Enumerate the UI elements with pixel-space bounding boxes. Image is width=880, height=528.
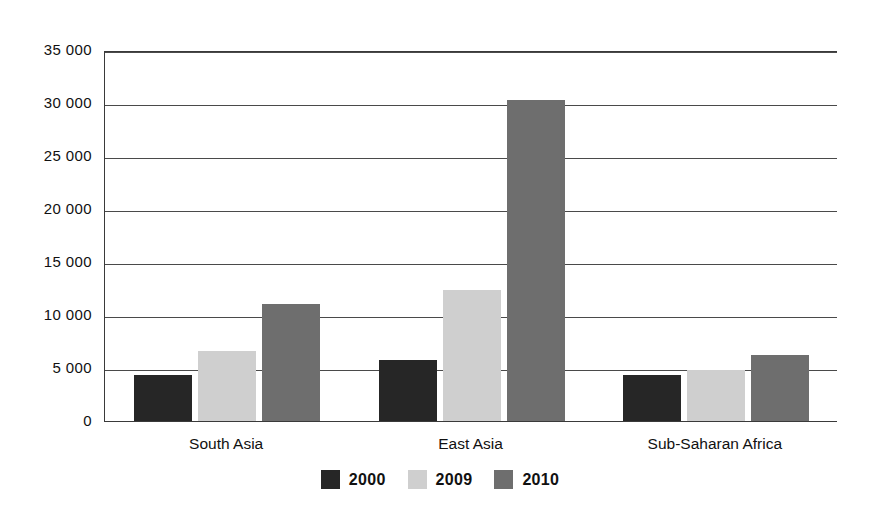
bar-east-asia-2000 <box>379 360 437 421</box>
y-tick-label: 20 000 <box>0 200 92 217</box>
y-tick-label: 35 000 <box>0 41 92 58</box>
gridline <box>105 52 837 53</box>
legend-label-2010: 2010 <box>522 471 559 489</box>
bar-sub-saharan-africa-2009 <box>687 370 745 421</box>
legend-swatch-2000 <box>321 470 340 489</box>
bar-east-asia-2010 <box>507 100 565 421</box>
category-label-sub-saharan-africa: Sub-Saharan Africa <box>593 435 837 453</box>
legend-item-2000[interactable]: 2000 <box>321 470 386 489</box>
bar-chart: 05 00010 00015 00020 00025 00030 00035 0… <box>0 0 880 528</box>
legend-label-2000: 2000 <box>349 471 386 489</box>
legend-swatch-2009 <box>408 470 427 489</box>
gridline <box>105 264 837 265</box>
y-tick-label: 15 000 <box>0 253 92 270</box>
y-tick-label: 25 000 <box>0 147 92 164</box>
bar-south-asia-2000 <box>134 375 192 421</box>
bar-sub-saharan-africa-2000 <box>623 375 681 421</box>
legend-item-2010[interactable]: 2010 <box>494 470 559 489</box>
gridline <box>105 158 837 159</box>
gridline <box>105 211 837 212</box>
y-tick-label: 5 000 <box>0 359 92 376</box>
category-label-south-asia: South Asia <box>104 435 348 453</box>
category-label-east-asia: East Asia <box>348 435 592 453</box>
legend-label-2009: 2009 <box>436 471 473 489</box>
bar-sub-saharan-africa-2010 <box>751 355 809 421</box>
y-tick-label: 10 000 <box>0 306 92 323</box>
chart-legend: 200020092010 <box>0 470 880 489</box>
legend-item-2009[interactable]: 2009 <box>408 470 473 489</box>
plot-area <box>104 51 837 422</box>
bar-south-asia-2010 <box>262 304 320 421</box>
y-tick-label: 0 <box>0 412 92 429</box>
bar-south-asia-2009 <box>198 351 256 421</box>
legend-swatch-2010 <box>494 470 513 489</box>
y-tick-label: 30 000 <box>0 94 92 111</box>
gridline <box>105 105 837 106</box>
bar-east-asia-2009 <box>443 290 501 421</box>
